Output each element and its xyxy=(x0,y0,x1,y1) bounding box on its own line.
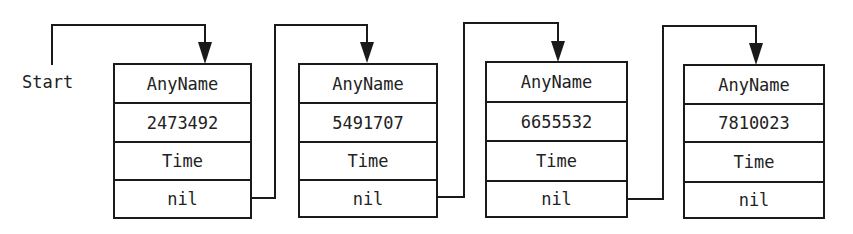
node-value-field: 5491707 xyxy=(300,102,436,141)
node-next-field: nil xyxy=(685,181,823,217)
node-name-field: AnyName xyxy=(115,65,250,102)
node-name-field: AnyName xyxy=(487,63,626,101)
node-next-field: nil xyxy=(115,179,250,217)
node-name-field: AnyName xyxy=(685,66,823,103)
node-time-field: Time xyxy=(300,141,436,179)
node-time-field: Time xyxy=(487,140,626,180)
node-name-field: AnyName xyxy=(300,65,436,102)
start-arrow xyxy=(52,25,212,65)
node-next-field: nil xyxy=(487,180,626,216)
list-node-3: AnyName 6655532 Time nil xyxy=(485,61,628,218)
node-time-field: Time xyxy=(685,141,823,181)
linked-list-diagram: Start AnyName 2473492 Tim xyxy=(0,0,853,234)
list-node-4: AnyName 7810023 Time nil xyxy=(683,64,825,219)
node-value-field: 6655532 xyxy=(487,101,626,140)
node-time-field: Time xyxy=(115,141,250,179)
node-next-field: nil xyxy=(300,179,436,216)
list-node-1: AnyName 2473492 Time nil xyxy=(113,63,252,219)
node-value-field: 2473492 xyxy=(115,102,250,141)
node-value-field: 7810023 xyxy=(685,103,823,141)
list-node-2: AnyName 5491707 Time nil xyxy=(298,63,438,218)
